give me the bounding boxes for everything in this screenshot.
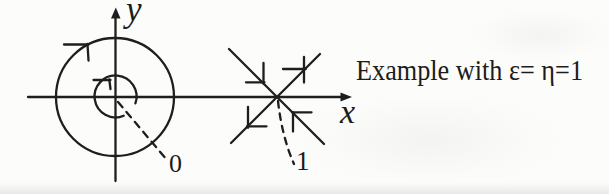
y-axis-label: y: [123, 0, 142, 29]
arrow-barb: [109, 80, 110, 90]
origin-point-label: 0: [169, 149, 182, 178]
arrow-barb: [88, 44, 89, 61]
x-axis-label: x: [339, 93, 355, 130]
phase-portrait-figure: y x 0 1 Example with ε= η=1: [0, 0, 609, 194]
y-axis-arrowhead-icon: [111, 8, 121, 19]
saddle-separatrix-sw-ne: [231, 54, 320, 143]
leader-line-to-origin-label: [118, 102, 167, 160]
saddle-point-label: 1: [296, 146, 310, 176]
figure-caption: Example with ε= η=1: [356, 54, 583, 86]
phase-portrait-canvas: y x 0 1 Example with ε= η=1: [0, 0, 609, 194]
